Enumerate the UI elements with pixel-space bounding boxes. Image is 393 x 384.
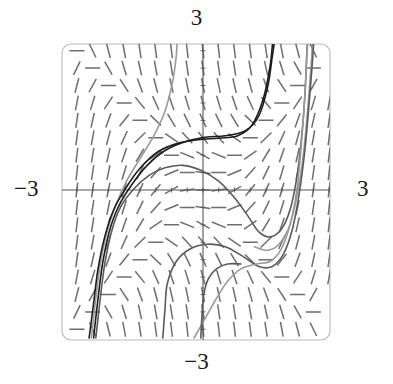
axis-label-top: 3 bbox=[0, 6, 393, 29]
slope-field-figure: 3 −3 −3 3 bbox=[0, 0, 393, 384]
axis-label-right: 3 bbox=[357, 177, 369, 200]
axis-label-bottom: −3 bbox=[0, 350, 393, 373]
slope-field-svg bbox=[0, 0, 393, 384]
axis-label-left: −3 bbox=[14, 177, 38, 200]
figure-background bbox=[0, 0, 393, 384]
